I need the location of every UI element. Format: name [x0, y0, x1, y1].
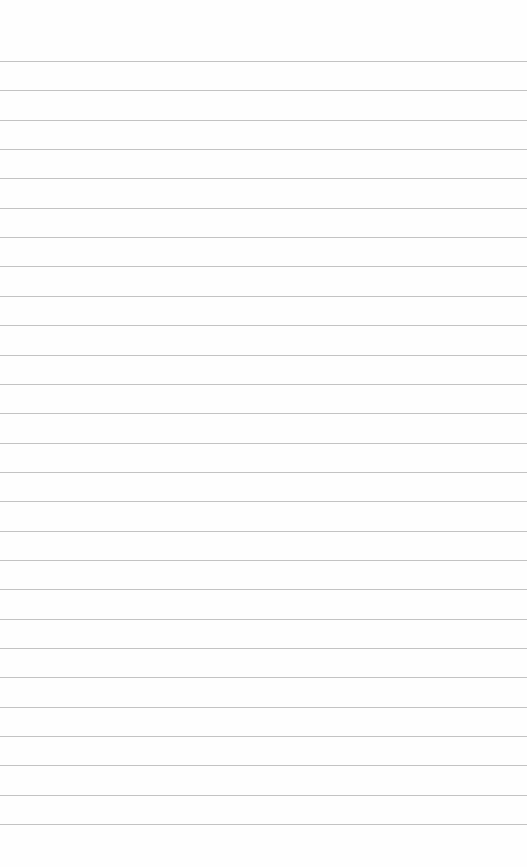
ruled-line: [0, 178, 527, 179]
ruled-line: [0, 120, 527, 121]
ruled-paper-page: [0, 0, 527, 867]
ruled-line: [0, 61, 527, 62]
ruled-line: [0, 296, 527, 297]
ruled-line: [0, 355, 527, 356]
ruled-line: [0, 795, 527, 796]
ruled-line: [0, 677, 527, 678]
ruled-line: [0, 707, 527, 708]
ruled-line: [0, 443, 527, 444]
ruled-line: [0, 824, 527, 825]
ruled-line: [0, 472, 527, 473]
ruled-line: [0, 413, 527, 414]
ruled-line: [0, 325, 527, 326]
ruled-line: [0, 648, 527, 649]
ruled-line: [0, 149, 527, 150]
ruled-line: [0, 736, 527, 737]
ruled-line: [0, 90, 527, 91]
ruled-line: [0, 531, 527, 532]
ruled-line: [0, 266, 527, 267]
ruled-line: [0, 501, 527, 502]
ruled-line: [0, 589, 527, 590]
ruled-line: [0, 384, 527, 385]
ruled-line: [0, 237, 527, 238]
ruled-line: [0, 208, 527, 209]
ruled-line: [0, 765, 527, 766]
ruled-line: [0, 619, 527, 620]
ruled-line: [0, 560, 527, 561]
